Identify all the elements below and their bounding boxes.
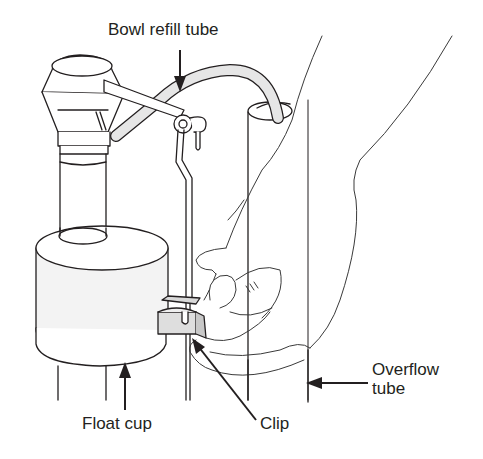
label-overflow-tube-line2: tube (372, 379, 452, 398)
arrow-float-cup (119, 362, 131, 410)
arrow-clip (192, 338, 256, 420)
overflow-tube-drawing (248, 100, 308, 400)
label-float-cup: Float cup (82, 414, 152, 433)
arrow-overflow-tube (306, 377, 368, 389)
hand-drawing (190, 36, 452, 375)
label-bowl-refill-tube: Bowl refill tube (108, 20, 219, 39)
label-overflow-tube-line1: Overflow (372, 360, 452, 379)
label-clip: Clip (260, 414, 289, 433)
label-overflow-tube: Overflow tube (372, 360, 452, 398)
lower-pipes-drawing (248, 350, 308, 402)
float-rod-drawing (176, 130, 192, 400)
diagram-canvas: Bowl refill tube Overflow tube Float cup… (0, 0, 483, 459)
float-cup-drawing (36, 226, 168, 400)
